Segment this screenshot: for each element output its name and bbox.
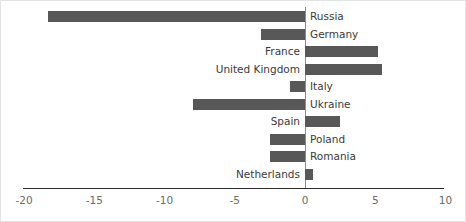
category-label-germany: Germany (310, 29, 358, 40)
bar-netherlands (305, 169, 313, 180)
x-tick-neg20: -20 (4, 194, 44, 206)
category-label-romania: Romania (310, 151, 356, 162)
category-label-france: France (265, 46, 300, 57)
category-label-united-kingdom: United Kingdom (216, 64, 300, 75)
x-tick-0: 0 (285, 194, 325, 206)
category-label-spain: Spain (271, 116, 300, 127)
bar-spain (305, 116, 340, 127)
bar-romania (270, 151, 305, 162)
chart-container: RussiaGermanyFranceUnited KingdomItalyUk… (0, 0, 466, 222)
category-label-ukraine: Ukraine (310, 99, 351, 110)
x-tick-neg5: -5 (215, 194, 255, 206)
x-tick-neg10: -10 (145, 194, 185, 206)
bar-russia (48, 11, 305, 22)
x-tick-10: 10 (426, 194, 466, 206)
zero-axis-line (305, 7, 306, 188)
bar-france (305, 46, 378, 57)
category-label-poland: Poland (310, 134, 345, 145)
bar-united-kingdom (305, 64, 382, 75)
bar-ukraine (193, 99, 305, 110)
bar-poland (270, 134, 305, 145)
x-axis-line (23, 188, 444, 189)
bar-italy (290, 81, 305, 92)
plot-area: RussiaGermanyFranceUnited KingdomItalyUk… (1, 1, 466, 222)
x-tick-5: 5 (355, 194, 395, 206)
x-tick-neg15: -15 (74, 194, 114, 206)
category-label-russia: Russia (310, 11, 344, 22)
category-label-italy: Italy (310, 81, 333, 92)
category-label-netherlands: Netherlands (236, 169, 300, 180)
bar-germany (261, 29, 305, 40)
